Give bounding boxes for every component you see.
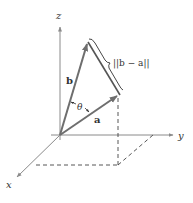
vector-a-label: a xyxy=(94,114,101,125)
axes xyxy=(17,27,173,177)
diagonal-dashed-line xyxy=(118,135,153,165)
projection-lines xyxy=(36,98,153,165)
difference-norm-label: ||b − a|| xyxy=(113,58,150,69)
vector-b xyxy=(60,44,87,135)
vector-a xyxy=(60,96,117,135)
theta-arrow-left xyxy=(71,102,76,104)
vector-diagram: z y x b a θ ||b − a|| xyxy=(0,0,193,203)
x-axis-label: x xyxy=(6,179,12,190)
vectors xyxy=(60,42,120,135)
y-axis-label: y xyxy=(177,130,184,141)
z-axis-label: z xyxy=(55,10,62,21)
vector-b-label: b xyxy=(66,75,73,86)
vector-b-minus-a xyxy=(88,42,120,95)
theta-arrow-right xyxy=(85,108,89,112)
x-axis xyxy=(17,135,60,177)
theta-label: θ xyxy=(77,102,83,112)
